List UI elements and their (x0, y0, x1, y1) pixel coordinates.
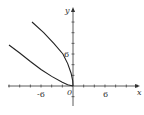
y-axis-arrow (71, 7, 75, 12)
y-axis-label: y (64, 6, 70, 15)
x-tick-label-6: 6 (103, 90, 108, 99)
x-axis-label: x (137, 88, 142, 97)
x-tick-label-neg6: -6 (37, 90, 45, 99)
origin-label: 0 (67, 88, 72, 97)
y-tick-label-6: 6 (64, 50, 69, 59)
chart: x y -6 6 6 0 (0, 0, 144, 115)
